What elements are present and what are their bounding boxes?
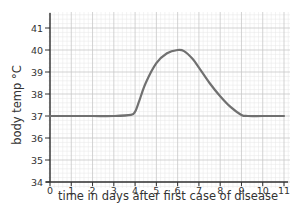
chart: 343536373839404101234567891011 time in d… [0,0,301,219]
y-tick-label: 37 [31,111,43,122]
x-axis-label: time in days after first case of disease [58,189,278,203]
y-axis-label: body temp °C [10,65,24,145]
y-tick-label: 34 [31,177,43,188]
y-tick-label: 38 [31,89,43,100]
y-tick-label: 36 [31,133,43,144]
x-tick-label: 0 [47,185,53,196]
grid-minor [48,12,290,188]
temperature-curve [50,50,284,116]
y-tick-label: 41 [31,23,43,34]
y-tick-label: 40 [31,45,43,56]
axes [46,13,288,182]
y-tick-label: 39 [31,67,43,78]
y-tick-label: 35 [31,155,43,166]
x-tick-label: 11 [278,185,290,196]
